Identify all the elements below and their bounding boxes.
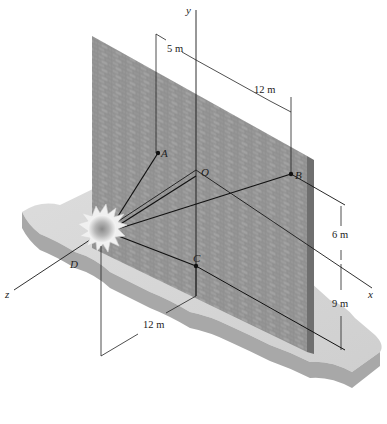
dim-12m-top: 12 m [254, 84, 275, 95]
point-a-label: A [160, 147, 168, 159]
wall-explosion-diagram: y x z A O B C D 5 m 12 m 6 m 9 m 12 m [0, 0, 387, 424]
dim-12m-bottom: 12 m [143, 319, 164, 330]
dim-5m: 5 m [167, 43, 183, 54]
dim-9m: 9 m [332, 298, 348, 309]
point-d-label: D [69, 258, 78, 270]
point-o-label: O [201, 166, 209, 178]
point-b-label: B [295, 169, 302, 181]
x-axis-label: x [367, 288, 373, 300]
point-c-label: C [193, 252, 201, 264]
z-axis-label: z [4, 288, 10, 300]
dim-6m: 6 m [332, 229, 348, 240]
y-axis-label: y [185, 4, 191, 16]
